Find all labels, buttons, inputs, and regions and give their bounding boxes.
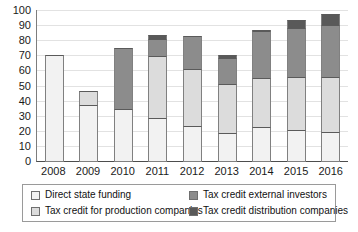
y-axis: 1009080706050403020100 xyxy=(0,0,34,160)
x-axis-tick-label: 2015 xyxy=(279,163,314,179)
bar-group xyxy=(210,10,245,161)
bar-segment[interactable] xyxy=(321,77,340,133)
chart-legend: Direct state fundingTax credit external … xyxy=(22,184,336,222)
bar-segment[interactable] xyxy=(148,56,167,119)
bar-segment[interactable] xyxy=(321,25,340,78)
bar-group xyxy=(72,10,107,161)
legend-swatch-icon xyxy=(189,207,198,216)
y-axis-tick-label: 20 xyxy=(19,125,31,136)
legend-label: Tax credit distribution companies xyxy=(203,206,348,216)
y-axis-tick-label: 100 xyxy=(13,5,31,16)
y-axis-tick-label: 90 xyxy=(19,20,31,31)
bar-stack[interactable] xyxy=(321,14,340,161)
bar-segment[interactable] xyxy=(321,132,340,162)
bar-segment[interactable] xyxy=(287,77,306,131)
bar-stack[interactable] xyxy=(79,91,98,161)
bar-stack[interactable] xyxy=(45,55,64,161)
y-axis-tick-label: 10 xyxy=(19,140,31,151)
bar-group xyxy=(279,10,314,161)
bar-stack[interactable] xyxy=(252,30,271,161)
x-axis-tick-label: 2008 xyxy=(36,163,71,179)
bars-layer xyxy=(37,10,348,161)
bar-segment[interactable] xyxy=(218,58,237,85)
bar-segment[interactable] xyxy=(148,118,167,162)
legend-label: Tax credit external investors xyxy=(203,190,327,200)
bar-segment[interactable] xyxy=(183,126,202,162)
legend-item[interactable]: Tax credit distribution companies xyxy=(189,206,348,216)
bar-stack[interactable] xyxy=(148,35,167,161)
legend-label: Direct state funding xyxy=(45,190,131,200)
bar-group xyxy=(106,10,141,161)
x-axis-tick-label: 2016 xyxy=(313,163,348,179)
y-axis-tick-label: 0 xyxy=(25,156,31,167)
bar-segment[interactable] xyxy=(45,55,64,162)
legend-swatch-icon xyxy=(189,191,198,200)
y-axis-tick-label: 70 xyxy=(19,50,31,61)
y-axis-tick-label: 60 xyxy=(19,65,31,76)
bar-group xyxy=(314,10,349,161)
bar-segment[interactable] xyxy=(114,109,133,162)
stacked-bar-chart: 1009080706050403020100 20082009201020112… xyxy=(0,0,358,232)
legend-item[interactable]: Tax credit for production companies xyxy=(31,206,189,216)
x-axis-tick-label: 2013 xyxy=(209,163,244,179)
bar-segment[interactable] xyxy=(114,48,133,110)
x-axis-tick-label: 2009 xyxy=(71,163,106,179)
x-axis-tick-label: 2014 xyxy=(244,163,279,179)
legend-swatch-icon xyxy=(31,191,40,200)
bar-segment[interactable] xyxy=(79,105,98,162)
bar-segment[interactable] xyxy=(252,127,271,162)
x-axis-tick-label: 2012 xyxy=(175,163,210,179)
plot-wrapper: 1009080706050403020100 xyxy=(0,0,358,160)
y-axis-tick-label: 30 xyxy=(19,110,31,121)
bar-segment[interactable] xyxy=(252,31,271,79)
bar-segment[interactable] xyxy=(287,28,306,78)
bar-group xyxy=(175,10,210,161)
bar-segment[interactable] xyxy=(79,91,98,106)
legend-item[interactable]: Tax credit external investors xyxy=(189,190,348,200)
x-axis-tick-label: 2010 xyxy=(105,163,140,179)
bar-segment[interactable] xyxy=(287,130,306,162)
y-axis-tick-label: 50 xyxy=(19,80,31,91)
y-axis-tick-label: 40 xyxy=(19,95,31,106)
bar-stack[interactable] xyxy=(114,48,133,161)
bar-stack[interactable] xyxy=(183,36,202,161)
legend-item[interactable]: Direct state funding xyxy=(31,190,189,200)
x-axis-tick-label: 2011 xyxy=(140,163,175,179)
bar-segment[interactable] xyxy=(183,69,202,126)
bar-group xyxy=(141,10,176,161)
x-axis: 200820092010201120122013201420152016 xyxy=(36,163,348,179)
bar-segment[interactable] xyxy=(252,78,271,128)
y-axis-tick-label: 80 xyxy=(19,35,31,46)
bar-stack[interactable] xyxy=(287,20,306,161)
plot-area xyxy=(36,10,348,162)
legend-swatch-icon xyxy=(31,207,40,216)
bar-stack[interactable] xyxy=(218,55,237,161)
bar-segment[interactable] xyxy=(148,39,167,57)
bar-segment[interactable] xyxy=(183,36,202,71)
legend-label: Tax credit for production companies xyxy=(45,206,203,216)
bar-group xyxy=(244,10,279,161)
bar-group xyxy=(37,10,72,161)
bar-segment[interactable] xyxy=(218,133,237,162)
bar-segment[interactable] xyxy=(218,84,237,134)
